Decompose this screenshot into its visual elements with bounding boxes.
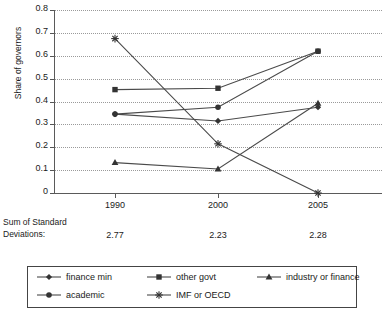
sd-label-line2: Deviations: (3, 228, 98, 240)
data-point-circle (46, 292, 52, 298)
data-point-asterisk (155, 291, 163, 299)
plot-area: Share of governors 0.80.70.60.50.40.30.2… (0, 0, 382, 213)
data-point-diamond (46, 274, 52, 280)
data-point-triangle (315, 100, 322, 106)
legend-item[interactable]: industry or finance (256, 271, 360, 283)
data-point-asterisk (314, 189, 322, 197)
sd-value: 2.23 (188, 230, 248, 240)
sd-value: 2.77 (85, 230, 145, 240)
data-point-circle (315, 48, 321, 54)
legend-marker-circle-icon (36, 289, 62, 301)
legend-marker-square-icon (146, 271, 172, 283)
data-point-circle (215, 104, 221, 110)
sd-label-line1: Sum of Standard (3, 216, 98, 228)
sd-value: 2.28 (288, 230, 348, 240)
chart-root: Share of governors 0.80.70.60.50.40.30.2… (0, 0, 382, 313)
data-point-square (215, 86, 220, 91)
legend-item[interactable]: finance min (36, 271, 112, 283)
series-academic (112, 48, 321, 117)
legend-marker-triangle-icon (256, 271, 282, 283)
data-point-triangle (112, 159, 119, 165)
legend-marker-asterisk-icon (146, 289, 172, 301)
sd-annotation-label: Sum of Standard Deviations: (3, 216, 98, 240)
legend-item[interactable]: other govt (146, 271, 216, 283)
series-other-govt (112, 48, 320, 92)
legend-marker-diamond-icon (36, 271, 62, 283)
legend-item[interactable]: IMF or OECD (146, 289, 231, 301)
chart-legend: finance minother govtindustry or finance… (27, 266, 357, 308)
data-point-square (156, 274, 161, 279)
data-point-circle (112, 111, 118, 117)
series-layer (0, 0, 382, 213)
legend-label: industry or finance (286, 271, 360, 283)
data-point-square (112, 87, 117, 92)
legend-label: IMF or OECD (176, 289, 231, 301)
data-point-asterisk (111, 35, 119, 43)
data-point-diamond (215, 118, 221, 124)
legend-label: finance min (66, 271, 112, 283)
sd-annotation-row: Sum of Standard Deviations: 2.772.232.28 (0, 216, 382, 252)
legend-label: academic (66, 289, 105, 301)
legend-item[interactable]: academic (36, 289, 105, 301)
data-point-asterisk (214, 140, 222, 148)
legend-label: other govt (176, 271, 216, 283)
